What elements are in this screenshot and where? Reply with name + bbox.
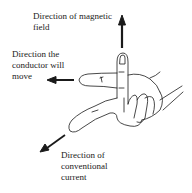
hand-illustration — [0, 0, 192, 193]
hand-drawing — [69, 53, 183, 132]
arrow-up-icon — [119, 15, 126, 48]
arrow-left-icon — [47, 77, 74, 84]
arrow-down-left-icon — [40, 135, 65, 152]
